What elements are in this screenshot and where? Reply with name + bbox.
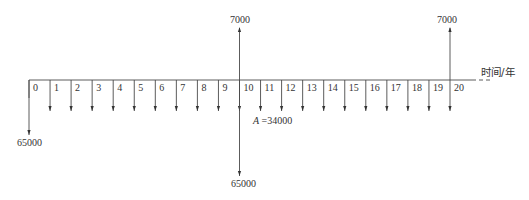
arrow-down-icon: [91, 106, 94, 111]
tick-label-6: 6: [159, 82, 164, 93]
inflow-label-period-10: 7000: [230, 14, 250, 25]
tick-label-7: 7: [180, 82, 185, 93]
tick-label-20: 20: [454, 82, 464, 93]
tick-label-3: 3: [96, 82, 101, 93]
arrow-down-icon: [364, 106, 367, 111]
outflow-label-period-0: 65000: [17, 137, 42, 148]
arrow-up-icon: [448, 27, 451, 32]
arrow-down-icon: [133, 106, 136, 111]
arrow-down-icon: [280, 106, 283, 111]
tick-label-2: 2: [75, 82, 80, 93]
tick-label-13: 13: [307, 82, 317, 93]
tick-labels: 01234567891011121314151617181920: [33, 82, 464, 93]
tick-label-12: 12: [286, 82, 296, 93]
tick-label-18: 18: [412, 82, 422, 93]
arrow-down-icon: [70, 106, 73, 111]
tick-label-19: 19: [433, 82, 443, 93]
cash-flow-diagram: 01234567891011121314151617181920 时间/年 70…: [0, 0, 529, 200]
arrow-down-icon: [259, 106, 262, 111]
cash-flow-arrows: [27, 27, 451, 176]
arrow-down-icon: [238, 171, 241, 176]
tick-label-16: 16: [370, 82, 380, 93]
annuity-value: =34000: [259, 115, 292, 126]
tick-label-5: 5: [138, 82, 143, 93]
tick-label-1: 1: [54, 82, 59, 93]
arrow-down-icon: [406, 106, 409, 111]
outflow-label-period-10: 65000: [231, 178, 256, 189]
arrow-down-icon: [322, 106, 325, 111]
arrow-down-icon: [448, 106, 451, 111]
arrow-down-icon: [27, 130, 30, 135]
arrow-down-icon: [427, 106, 430, 111]
tick-label-14: 14: [328, 82, 338, 93]
arrow-down-icon: [301, 106, 304, 111]
tick-label-15: 15: [349, 82, 359, 93]
arrow-up-icon: [238, 27, 241, 32]
tick-label-11: 11: [265, 82, 275, 93]
tick-label-4: 4: [117, 82, 122, 93]
tick-label-0: 0: [33, 82, 38, 93]
arrow-down-icon: [343, 106, 346, 111]
arrow-down-icon: [48, 106, 51, 111]
arrow-down-icon: [217, 106, 220, 111]
tick-label-10: 10: [244, 82, 254, 93]
tick-label-8: 8: [201, 82, 206, 93]
annuity-label: A =34000: [252, 115, 292, 126]
axis-title: 时间/年: [481, 66, 515, 78]
tick-label-17: 17: [391, 82, 401, 93]
arrow-down-icon: [385, 106, 388, 111]
arrow-down-icon: [154, 106, 157, 111]
arrow-down-icon: [112, 106, 115, 111]
arrow-down-icon: [175, 106, 178, 111]
inflow-label-period-20: 7000: [437, 14, 457, 25]
arrow-down-icon: [196, 106, 199, 111]
tick-label-9: 9: [222, 82, 227, 93]
